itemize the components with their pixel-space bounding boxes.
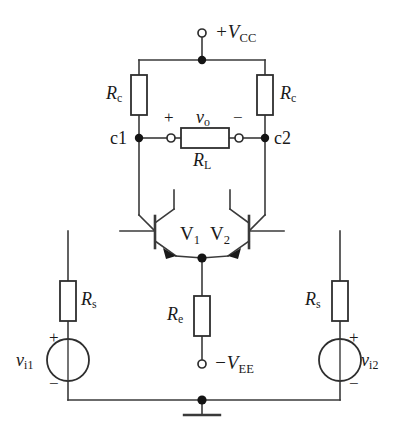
resistor-rs-right-body	[332, 281, 348, 321]
schematic-svg	[0, 0, 406, 439]
terminal-vcc	[198, 29, 206, 37]
resistor-rl-body	[181, 128, 229, 148]
resistor-rs-left-body	[60, 281, 76, 321]
wire-c1-to-collector	[139, 215, 155, 231]
circuit-diagram: +VCC Rc Rc c1 c2 + vo − RL V1 V2 Rs	[0, 0, 406, 439]
terminal-output-plus	[167, 134, 175, 142]
node-dot-c2	[261, 134, 269, 142]
node-dot-vcc-rail	[198, 56, 206, 64]
v2-emitter-arrow	[228, 248, 241, 259]
label-transistor-v2: V2	[210, 224, 230, 246]
label-rl: RL	[193, 151, 211, 172]
label-node-c1: c1	[110, 129, 127, 147]
label-vi1-minus: −	[49, 375, 59, 392]
node-dot-c1	[135, 134, 143, 142]
label-vi2-plus: +	[349, 329, 359, 346]
node-dot-tail	[197, 253, 206, 262]
label-output-vo: vo	[196, 108, 210, 129]
v2-collector-lead	[230, 209, 249, 223]
label-vi2-minus: −	[349, 375, 359, 392]
node-dot-ground	[197, 395, 206, 404]
v1-collector-lead	[155, 209, 174, 223]
terminal-output-minus	[235, 134, 243, 142]
label-re: Re	[167, 305, 183, 326]
label-rs-right: Rs	[305, 290, 321, 311]
label-vcc: +VCC	[215, 22, 257, 44]
v1-emitter-arrow	[163, 248, 176, 259]
label-rs-left: Rs	[81, 290, 97, 311]
label-vi2: vi2	[361, 351, 379, 372]
label-vi1-plus: +	[49, 329, 59, 346]
resistor-rc-right-body	[257, 75, 273, 115]
terminal-vee	[198, 360, 206, 368]
label-vee: −VEE	[214, 353, 254, 375]
resistor-rc-left-body	[131, 75, 147, 115]
label-rc-left: Rc	[106, 84, 122, 105]
label-node-c2: c2	[274, 129, 291, 147]
label-output-minus: −	[233, 109, 243, 126]
label-rc-right: Rc	[280, 84, 296, 105]
label-transistor-v1: V1	[180, 224, 200, 246]
resistor-re-body	[194, 296, 210, 336]
wire-c2-to-collector	[249, 215, 265, 231]
label-output-plus: +	[164, 109, 174, 126]
label-vi1: vi1	[16, 351, 34, 372]
